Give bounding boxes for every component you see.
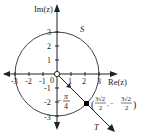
svg-text:−: − bbox=[57, 96, 62, 105]
svg-text:4: 4 bbox=[64, 102, 68, 111]
x-tick-label: -3 bbox=[11, 77, 18, 86]
svg-text:): ) bbox=[133, 99, 136, 111]
x-tick-label: 3 bbox=[97, 77, 101, 86]
angle-label: − π 4 bbox=[57, 92, 70, 111]
svg-text:3√2: 3√2 bbox=[95, 95, 105, 102]
curve-label-s: S bbox=[80, 24, 85, 34]
svg-text:2: 2 bbox=[125, 104, 128, 111]
x-tick-label: -2 bbox=[25, 77, 32, 86]
intersection-point bbox=[84, 101, 89, 106]
real-axis-arrow-left-icon bbox=[3, 71, 10, 77]
y-tick-label: -3 bbox=[44, 113, 51, 122]
imag-axis-arrow-up-icon bbox=[54, 4, 60, 12]
imag-axis-label: Im(z) bbox=[34, 4, 53, 14]
y-tick-label: -2 bbox=[44, 98, 51, 107]
y-tick-label: 3 bbox=[47, 28, 51, 37]
svg-text:, −: , − bbox=[107, 100, 114, 107]
imag-axis-arrow-down-icon bbox=[54, 122, 60, 130]
y-tick-label: -1 bbox=[44, 84, 51, 93]
origin-point bbox=[54, 71, 59, 76]
x-tick-label: 2 bbox=[82, 77, 86, 86]
y-tick-label: 2 bbox=[47, 42, 51, 51]
complex-plane-diagram: -3 -2 -1 1 2 3 0 3 2 1 -1 -2 -3 Im(z) Re… bbox=[0, 0, 144, 136]
svg-text:3√2: 3√2 bbox=[121, 95, 131, 102]
real-axis-label: Re(z) bbox=[108, 77, 127, 87]
svg-text:2: 2 bbox=[99, 104, 102, 111]
intersection-label: ( 3√2 2 , − 3√2 2 ) bbox=[91, 95, 136, 111]
svg-text:π: π bbox=[64, 92, 69, 101]
line-label-t: T bbox=[94, 122, 100, 132]
y-tick-label: 1 bbox=[47, 56, 51, 65]
